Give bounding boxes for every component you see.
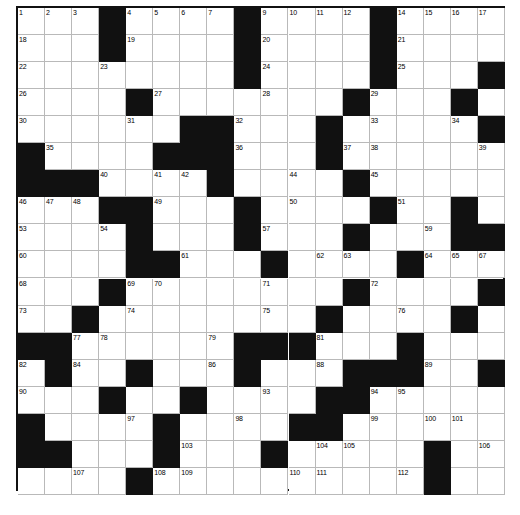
crossword-cell[interactable]: 81 [316,333,343,360]
crossword-cell[interactable]: 49 [153,197,180,224]
crossword-cell[interactable] [207,279,234,306]
crossword-cell[interactable]: 74 [126,306,153,333]
crossword-cell[interactable] [207,468,234,495]
crossword-cell[interactable] [478,414,505,441]
crossword-cell[interactable]: 107 [72,468,99,495]
crossword-cell[interactable] [72,279,99,306]
crossword-cell[interactable] [45,62,72,89]
crossword-cell[interactable] [370,224,397,251]
crossword-cell[interactable] [180,414,207,441]
crossword-cell[interactable] [153,387,180,414]
crossword-cell[interactable] [397,143,424,170]
crossword-cell[interactable] [45,89,72,116]
crossword-cell[interactable]: 67 [478,251,505,278]
crossword-cell[interactable] [343,306,370,333]
crossword-cell[interactable] [451,468,478,495]
crossword-cell[interactable]: 21 [397,35,424,62]
crossword-cell[interactable] [234,306,261,333]
crossword-cell[interactable] [289,306,316,333]
crossword-cell[interactable] [370,251,397,278]
crossword-cell[interactable] [289,251,316,278]
crossword-cell[interactable] [424,170,451,197]
crossword-cell[interactable] [207,35,234,62]
crossword-cell[interactable] [397,89,424,116]
crossword-cell[interactable] [261,170,288,197]
crossword-cell[interactable] [397,279,424,306]
crossword-cell[interactable] [289,224,316,251]
crossword-cell[interactable] [261,360,288,387]
crossword-cell[interactable] [180,35,207,62]
crossword-cell[interactable]: 68 [18,279,45,306]
crossword-cell[interactable] [234,89,261,116]
crossword-cell[interactable] [343,35,370,62]
crossword-cell[interactable] [207,197,234,224]
crossword-cell[interactable] [343,414,370,441]
crossword-cell[interactable] [153,62,180,89]
crossword-cell[interactable]: 33 [370,116,397,143]
crossword-cell[interactable] [451,279,478,306]
crossword-cell[interactable]: 93 [261,387,288,414]
crossword-cell[interactable] [316,35,343,62]
crossword-cell[interactable]: 26 [18,89,45,116]
crossword-cell[interactable] [99,468,126,495]
crossword-cell[interactable] [72,251,99,278]
crossword-cell[interactable] [370,306,397,333]
crossword-cell[interactable] [72,441,99,468]
crossword-cell[interactable] [45,224,72,251]
crossword-cell[interactable] [261,197,288,224]
crossword-grid[interactable]: 1234567910111214151617181920212223242526… [16,6,505,491]
crossword-cell[interactable]: 38 [370,143,397,170]
crossword-cell[interactable]: 6 [180,8,207,35]
crossword-cell[interactable]: 10 [289,8,316,35]
crossword-cell[interactable]: 86 [207,360,234,387]
crossword-cell[interactable]: 109 [180,468,207,495]
crossword-cell[interactable] [289,360,316,387]
crossword-cell[interactable]: 37 [343,143,370,170]
crossword-cell[interactable] [289,62,316,89]
crossword-cell[interactable] [153,360,180,387]
crossword-cell[interactable] [424,279,451,306]
crossword-cell[interactable] [72,89,99,116]
crossword-cell[interactable]: 112 [397,468,424,495]
crossword-cell[interactable] [397,170,424,197]
crossword-cell[interactable] [478,35,505,62]
crossword-cell[interactable] [424,89,451,116]
crossword-cell[interactable] [207,224,234,251]
crossword-cell[interactable]: 82 [18,360,45,387]
crossword-cell[interactable]: 89 [424,360,451,387]
crossword-cell[interactable] [99,414,126,441]
crossword-cell[interactable]: 4 [126,8,153,35]
crossword-cell[interactable]: 16 [451,8,478,35]
crossword-cell[interactable]: 40 [99,170,126,197]
crossword-cell[interactable] [72,387,99,414]
crossword-cell[interactable]: 101 [451,414,478,441]
crossword-cell[interactable]: 78 [99,333,126,360]
crossword-cell[interactable] [234,251,261,278]
crossword-cell[interactable] [99,441,126,468]
crossword-cell[interactable]: 103 [180,441,207,468]
crossword-cell[interactable] [45,468,72,495]
crossword-cell[interactable]: 2 [45,8,72,35]
crossword-cell[interactable] [451,333,478,360]
crossword-cell[interactable] [234,170,261,197]
crossword-cell[interactable]: 65 [451,251,478,278]
crossword-cell[interactable] [72,116,99,143]
crossword-cell[interactable] [45,306,72,333]
crossword-cell[interactable] [234,468,261,495]
crossword-cell[interactable]: 48 [72,197,99,224]
crossword-cell[interactable] [72,35,99,62]
crossword-cell[interactable] [126,62,153,89]
crossword-cell[interactable]: 51 [397,197,424,224]
crossword-cell[interactable] [424,306,451,333]
crossword-cell[interactable] [153,35,180,62]
crossword-cell[interactable]: 59 [424,224,451,251]
crossword-cell[interactable]: 98 [234,414,261,441]
crossword-cell[interactable] [370,333,397,360]
crossword-cell[interactable] [45,279,72,306]
crossword-cell[interactable]: 7 [207,8,234,35]
crossword-cell[interactable] [478,89,505,116]
crossword-cell[interactable]: 25 [397,62,424,89]
crossword-cell[interactable] [478,170,505,197]
crossword-cell[interactable] [126,333,153,360]
crossword-cell[interactable] [45,414,72,441]
